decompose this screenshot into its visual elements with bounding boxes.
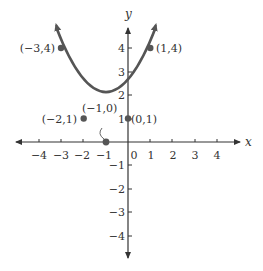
y-axis: y 4 3 2 1 −1 −2 −3 −4 [109,7,132,258]
y-tick-label: −1 [109,159,125,172]
x-tick-label: −3 [53,149,69,162]
point-label: (−2,1) [42,113,77,126]
y-tick-label: −3 [109,206,125,219]
vertex-leader-line [100,128,104,139]
x-tick-label: 3 [192,149,199,162]
point-label: (0,1) [131,113,157,126]
x-tick-label: −2 [74,149,90,162]
y-tick-label: −4 [109,230,125,243]
point-label: (1,4) [156,42,182,55]
y-tick-label: 1 [118,113,125,126]
x-tick-label: 0 [131,149,138,162]
point-neg2-1 [81,115,87,121]
x-tick-label: 2 [170,149,177,162]
y-axis-label: y [124,7,132,21]
x-axis: x −4 −3 −2 −1 0 1 2 3 4 [16,135,252,162]
point-1-4 [147,45,153,51]
x-tick-label: 1 [148,149,155,162]
parabola-curve [57,28,156,92]
y-tick-label: −2 [109,183,125,196]
x-tick-label: 4 [214,149,221,162]
point-label: (−1,0) [82,102,117,115]
x-axis-label: x [245,135,252,149]
x-tick-label: −4 [31,149,47,162]
point-neg1-0 [103,139,110,146]
point-label: (−3,4) [20,42,55,55]
parabola-graph: x −4 −3 −2 −1 0 1 2 3 4 y 4 3 2 1 −1 −2 … [0,0,263,271]
y-tick-label: 2 [118,89,125,102]
y-tick-label: 3 [118,66,125,79]
y-tick-label: 4 [118,42,125,55]
point-neg3-4 [58,45,64,51]
